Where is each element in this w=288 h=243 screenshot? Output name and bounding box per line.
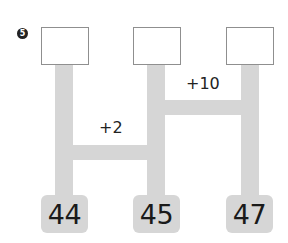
number-tile-right: 47 — [226, 195, 273, 233]
rail-left — [55, 64, 73, 199]
answer-box-left[interactable] — [41, 27, 89, 65]
rail-middle — [147, 64, 165, 199]
number-tile-left: 44 — [41, 195, 88, 233]
rail-right — [241, 64, 259, 199]
problem-number-badge: 5 — [17, 28, 28, 39]
rung-label-plus-10: +10 — [186, 74, 220, 93]
rung-label-plus-2: +2 — [99, 118, 123, 137]
answer-box-middle[interactable] — [133, 27, 181, 65]
answer-box-right[interactable] — [226, 27, 274, 65]
rung-left-middle — [73, 145, 147, 160]
rung-middle-right — [165, 100, 241, 115]
number-tile-middle: 45 — [133, 195, 180, 233]
